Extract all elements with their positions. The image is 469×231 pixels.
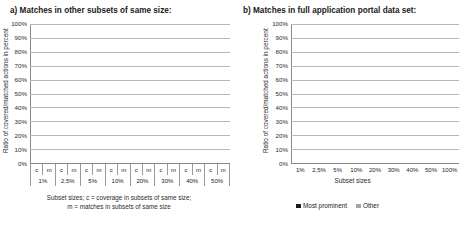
panel-a-bar-group — [30, 24, 230, 163]
bar-group — [291, 24, 310, 163]
sublabel-c: c — [81, 164, 92, 175]
y-tick-label: 30% — [276, 119, 288, 125]
sublabel-m: m — [167, 164, 179, 175]
sublabel-m: m — [67, 164, 79, 175]
y-tick-label: 60% — [15, 77, 27, 83]
panel-a-cm-labels: cmcmcmcmcmcmcmcm — [30, 164, 230, 175]
sublabel-c: c — [56, 164, 67, 175]
x-tick-label: 5% — [81, 175, 106, 186]
bar-group — [30, 24, 55, 163]
sublabel-m: m — [42, 164, 54, 175]
y-tick-label: 30% — [15, 119, 27, 125]
y-tick-label: 60% — [276, 77, 288, 83]
sublabel-c: c — [31, 164, 42, 175]
panel-b-title: b) Matches in full application portal da… — [243, 6, 416, 15]
panel-b-x-tick-labels: 1%2,5%5%10%20%30%40%50%100% — [291, 164, 459, 175]
y-tick-label: 40% — [276, 105, 288, 111]
panel-b-y-axis-label: Ratio of covered/matched actions in perc… — [262, 26, 270, 156]
cm-label-cell: cm — [81, 164, 106, 175]
y-tick-label: 0% — [279, 161, 288, 167]
sublabel-c: c — [155, 164, 166, 175]
x-tick-label: 30% — [384, 164, 403, 175]
y-tick-label: 50% — [15, 91, 27, 97]
sublabel-m: m — [217, 164, 229, 175]
bar-group — [155, 24, 180, 163]
legend-label-most-prominent: Most prominent — [303, 203, 347, 209]
panel-b-bar-group — [291, 24, 459, 163]
sublabel-m: m — [117, 164, 129, 175]
bar-group — [347, 24, 366, 163]
x-tick-label: 40% — [403, 164, 422, 175]
x-tick-label: 40% — [180, 175, 205, 186]
y-tick-label: 70% — [276, 63, 288, 69]
x-tick-label: 20% — [366, 164, 385, 175]
x-tick-label: 1% — [291, 164, 310, 175]
bar-group — [366, 24, 385, 163]
caption-line-1: Subset sizes; c = coverage in subsets of… — [14, 193, 224, 202]
y-tick-label: 20% — [15, 133, 27, 139]
y-tick-label: 90% — [15, 35, 27, 41]
bar-group — [205, 24, 230, 163]
cm-label-cell: cm — [180, 164, 205, 175]
bar-group — [440, 24, 459, 163]
y-tick-label: 80% — [15, 49, 27, 55]
sublabel-m: m — [192, 164, 204, 175]
panel-a-caption: Subset sizes; c = coverage in subsets of… — [14, 193, 224, 211]
cm-label-cell: cm — [205, 164, 230, 175]
legend-label-other: Other — [363, 203, 379, 209]
bar-group — [55, 24, 80, 163]
bar-group — [80, 24, 105, 163]
bar-group — [328, 24, 347, 163]
y-tick-label: 80% — [276, 49, 288, 55]
chart-panel-a: a) Matches in other subsets of same size… — [0, 0, 236, 231]
y-tick-label: 70% — [15, 63, 27, 69]
panel-a-plot-area: 100%90%80%70%60%50%40%30%20%10%0% — [30, 24, 230, 163]
legend-item-other: Other — [356, 203, 379, 209]
x-tick-label: 10% — [106, 175, 131, 186]
x-tick-label: 2,5% — [56, 175, 81, 186]
panel-a-y-axis-label: Ratio of covered/matched actions in perc… — [2, 26, 10, 156]
bar-group — [384, 24, 403, 163]
sublabel-c: c — [180, 164, 191, 175]
panel-b-plot-area: 100%90%80%70%60%50%40%30%20%10%0% — [291, 24, 459, 163]
x-tick-label: 5% — [328, 164, 347, 175]
y-tick-label: 10% — [15, 147, 27, 153]
cm-label-cell: cm — [131, 164, 156, 175]
x-tick-label: 50% — [205, 175, 230, 186]
bar-group — [403, 24, 422, 163]
cm-label-cell: cm — [56, 164, 81, 175]
bar-group — [310, 24, 329, 163]
bar-group — [130, 24, 155, 163]
y-tick-label: 10% — [276, 147, 288, 153]
sublabel-m: m — [142, 164, 154, 175]
y-tick-label: 90% — [276, 35, 288, 41]
panel-a-title: a) Matches in other subsets of same size… — [10, 6, 172, 15]
chart-panel-b: b) Matches in full application portal da… — [236, 0, 469, 231]
cm-label-cell: cm — [155, 164, 180, 175]
x-tick-label: 30% — [155, 175, 180, 186]
sublabel-m: m — [92, 164, 104, 175]
caption-line-2: m = matches in subsets of same size — [14, 202, 224, 211]
y-tick-label: 0% — [18, 161, 27, 167]
x-tick-label: 100% — [440, 164, 459, 175]
y-tick-label: 40% — [15, 105, 27, 111]
bar-group — [422, 24, 441, 163]
x-tick-label: 10% — [347, 164, 366, 175]
panel-b-x-axis-label: Subset sizes — [236, 177, 469, 184]
x-tick-label: 50% — [422, 164, 441, 175]
y-tick-label: 20% — [276, 133, 288, 139]
chart-legend: Most prominent Other — [296, 203, 379, 209]
legend-swatch-other — [356, 204, 361, 209]
cm-label-cell: cm — [30, 164, 56, 175]
panel-a-x-tick-labels: 1%2,5%5%10%20%30%40%50% — [30, 175, 230, 186]
bar-group — [105, 24, 130, 163]
sublabel-c: c — [205, 164, 216, 175]
legend-item-most-prominent: Most prominent — [296, 203, 347, 209]
sublabel-c: c — [106, 164, 117, 175]
x-tick-label: 20% — [131, 175, 156, 186]
sublabel-c: c — [131, 164, 142, 175]
x-tick-label: 1% — [30, 175, 56, 186]
legend-swatch-most-prominent — [296, 204, 301, 209]
y-tick-label: 100% — [272, 21, 288, 27]
bar-group — [180, 24, 205, 163]
